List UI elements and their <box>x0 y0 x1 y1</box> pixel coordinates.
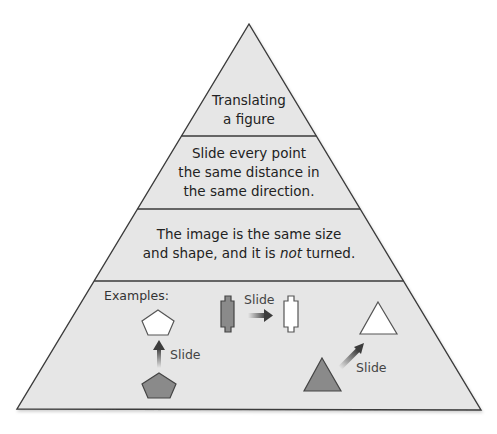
triangle-slide-label: Slide <box>356 360 387 375</box>
rectangle-image-icon <box>284 296 298 332</box>
translation-pyramid-diagram: Translating a figure Slide every point t… <box>0 0 497 434</box>
pyramid-outline <box>17 24 481 410</box>
definition-line-3: the same direction. <box>184 183 315 199</box>
property-line-2-prefix: and shape, and it is <box>143 245 280 261</box>
pentagon-slide-label: Slide <box>170 347 201 362</box>
pyramid <box>17 24 481 410</box>
examples-label: Examples: <box>104 288 169 303</box>
rectangle-slide-label: Slide <box>244 292 275 307</box>
title-line-2: a figure <box>223 111 275 127</box>
rectangle-preimage-icon <box>221 296 234 332</box>
property-line-2: and shape, and it is not turned. <box>143 245 355 261</box>
definition-line-2: the same distance in <box>178 164 319 180</box>
title-line-1: Translating <box>211 92 286 108</box>
property-line-2-suffix: turned. <box>302 245 355 261</box>
property-line-2-emphasis: not <box>280 245 303 261</box>
property-line-1: The image is the same size <box>156 226 342 242</box>
right-arrow-shaft <box>248 313 266 318</box>
level-definition: Slide every point the same distance in t… <box>178 145 319 199</box>
definition-line-1: Slide every point <box>192 145 306 161</box>
up-arrow-shaft <box>157 348 161 368</box>
